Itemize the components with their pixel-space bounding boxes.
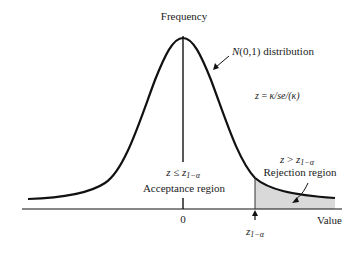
x-axis-label: Value (317, 214, 342, 226)
formula-eq: = (259, 90, 270, 101)
crit-sub: 1−α (250, 230, 264, 239)
reject-op: > (284, 153, 296, 165)
normal-distribution-diagram: Frequency N(0,1) distribution z = κ/se/(… (0, 0, 358, 253)
curve-label-rest: distribution (260, 45, 314, 57)
accept-op: ≤ (170, 166, 182, 178)
curve-label: N(0,1) distribution (231, 45, 314, 58)
y-axis-label: Frequency (161, 10, 208, 22)
critical-value-label: z1−α (245, 225, 265, 239)
curve-label-arrow-head (213, 63, 219, 70)
rejection-condition: z > z1−α (279, 153, 315, 167)
acceptance-condition: z ≤ z1−α (165, 166, 201, 180)
acceptance-region-label: Acceptance region (143, 182, 226, 194)
curve-label-arrow (216, 56, 229, 67)
rejection-region-label: Rejection region (263, 166, 337, 178)
formula-label: z = κ/se/(κ) (254, 90, 300, 102)
curve-label-args: (0,1) (239, 45, 260, 58)
formula-rhs: κ/se/(κ) (270, 90, 301, 102)
zero-tick-label: 0 (180, 213, 186, 225)
accept-sub: 1−α (186, 171, 200, 180)
critical-arrow-head (252, 210, 258, 216)
